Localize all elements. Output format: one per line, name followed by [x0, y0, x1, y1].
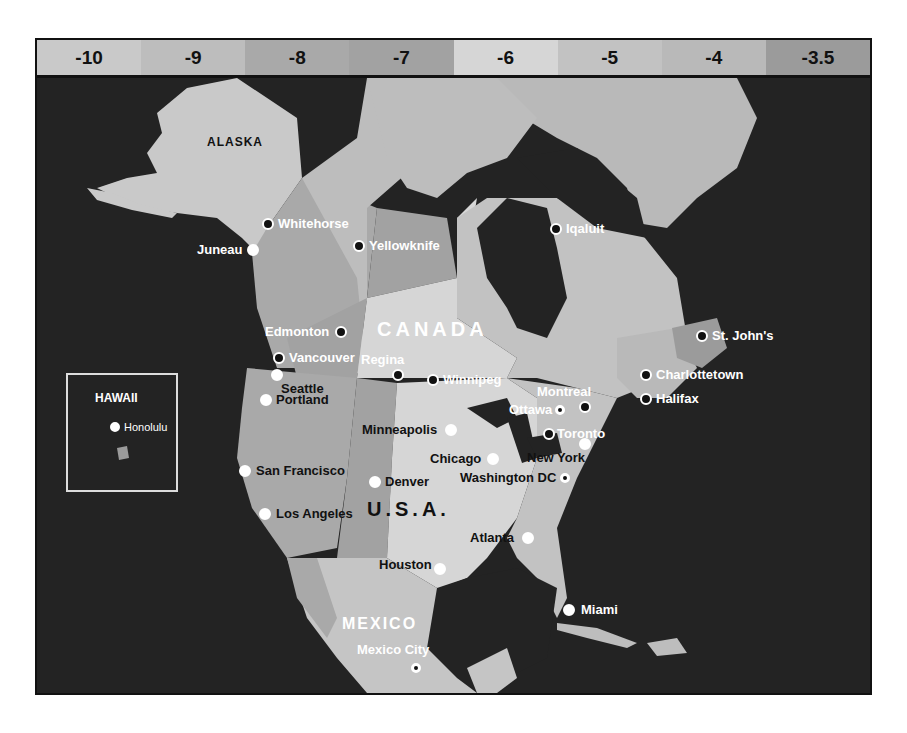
city-washington-dc[interactable]: Washington DC: [460, 470, 570, 485]
city-minneapolis[interactable]: Minneapolis: [362, 422, 457, 437]
city-edmonton[interactable]: Edmonton: [265, 324, 347, 339]
city-marker-icon: [335, 326, 347, 338]
city-marker-icon: [563, 604, 575, 616]
city-marker-icon: [247, 244, 259, 256]
city-marker-icon: [239, 465, 251, 477]
city-san-francisco[interactable]: San Francisco: [239, 463, 345, 478]
legend-band-minus-7: -7: [349, 40, 453, 75]
city-mexico-city[interactable]: Mexico City: [357, 642, 429, 673]
city-whitehorse[interactable]: Whitehorse: [262, 216, 349, 231]
legend-band-minus-10: -10: [37, 40, 141, 75]
city-marker-icon: [445, 424, 457, 436]
city-portland[interactable]: Portland: [260, 392, 329, 407]
city-houston[interactable]: Houston: [379, 563, 446, 575]
legend-band-minus-4: -4: [662, 40, 766, 75]
city-los-angeles[interactable]: Los Angeles: [259, 506, 353, 521]
utc-offset-legend: -10 -9 -8 -7 -6 -5 -4 -3.5: [37, 40, 870, 78]
legend-band-minus-6: -6: [454, 40, 558, 75]
city-marker-icon: [411, 663, 421, 673]
city-marker-icon: [487, 453, 499, 465]
legend-band-minus-5: -5: [558, 40, 662, 75]
city-marker-icon: [522, 532, 534, 544]
city-chicago[interactable]: Chicago: [430, 451, 499, 466]
city-new-york[interactable]: New York: [527, 438, 585, 465]
city-winnipeg[interactable]: Winnipeg: [427, 372, 501, 387]
city-marker-icon: [260, 394, 272, 406]
legend-band-minus-9: -9: [141, 40, 245, 75]
city-marker-icon: [696, 330, 708, 342]
city-atlanta[interactable]: Atlanta: [470, 530, 534, 545]
city-marker-icon: [555, 405, 565, 415]
region-label-usa: U.S.A.: [367, 498, 450, 521]
city-marker-icon: [262, 218, 274, 230]
city-honolulu[interactable]: Honolulu: [110, 421, 167, 433]
city-marker-icon: [427, 374, 439, 386]
region-label-canada: CANADA: [377, 318, 488, 341]
city-vancouver[interactable]: Vancouver: [273, 350, 355, 365]
city-yellowknife[interactable]: Yellowknife: [353, 238, 440, 253]
city-halifax[interactable]: Halifax: [640, 391, 699, 406]
region-label-mexico: MEXICO: [342, 615, 417, 633]
city-marker-icon: [369, 476, 381, 488]
city-miami[interactable]: Miami: [563, 602, 618, 617]
city-marker-icon: [259, 508, 271, 520]
region-label-hawaii: HAWAII: [95, 391, 138, 405]
city-marker-icon: [560, 473, 570, 483]
city-marker-icon: [579, 438, 591, 450]
city-marker-icon: [579, 401, 591, 413]
time-zone-map-frame: -10 -9 -8 -7 -6 -5 -4 -3.5: [35, 38, 872, 695]
city-marker-icon: [640, 369, 652, 381]
city-marker-icon: [110, 422, 120, 432]
legend-band-minus-3-5: -3.5: [766, 40, 870, 75]
city-marker-icon: [271, 369, 283, 381]
city-denver[interactable]: Denver: [369, 474, 429, 489]
city-marker-icon: [550, 223, 562, 235]
legend-band-minus-8: -8: [245, 40, 349, 75]
city-marker-icon: [353, 240, 365, 252]
city-marker-icon: [273, 352, 285, 364]
city-juneau[interactable]: Juneau: [197, 242, 259, 257]
north-america-map: ALASKA CANADA U.S.A. MEXICO HAWAII White…: [37, 78, 870, 693]
city-marker-icon: [434, 563, 446, 575]
region-label-alaska: ALASKA: [207, 135, 263, 149]
city-regina[interactable]: Regina: [361, 352, 404, 381]
city-charlottetown[interactable]: Charlottetown: [640, 367, 743, 382]
city-st-johns[interactable]: St. John's: [696, 328, 774, 343]
city-iqaluit[interactable]: Iqaluit: [550, 221, 604, 236]
city-marker-icon: [640, 393, 652, 405]
city-ottawa[interactable]: Ottawa: [509, 402, 565, 417]
city-marker-icon: [392, 369, 404, 381]
